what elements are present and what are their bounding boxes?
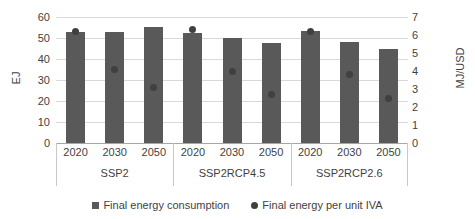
bar-2030-4: [223, 38, 242, 143]
x-axis-group-label-2: SSP2RCP2.6: [291, 167, 408, 179]
y-axis-right-tick-6: 6: [412, 29, 436, 41]
x-axis-year-label-4: 2030: [212, 146, 251, 158]
gridline-60: [56, 17, 408, 18]
y-axis-left-title: EJ: [10, 58, 22, 98]
datapoint-2030-7: [346, 71, 353, 78]
plot-area: [56, 17, 408, 143]
bar-2020-3: [183, 33, 202, 143]
y-axis-left-tick-0: 0: [26, 137, 50, 149]
x-axis-year-label-3: 2020: [173, 146, 212, 158]
datapoint-2020-6: [307, 28, 314, 35]
x-axis-year-label-6: 2020: [291, 146, 330, 158]
y-axis-right-title: MJ/USD: [454, 38, 466, 98]
y-axis-left-tick-40: 40: [26, 53, 50, 65]
chart-legend: Final energy consumptionFinal energy per…: [0, 196, 475, 214]
y-axis-left-tick-20: 20: [26, 95, 50, 107]
datapoint-2050-8: [385, 95, 392, 102]
x-axis-year-label-8: 2050: [369, 146, 408, 158]
y-axis-right-tick-0: 0: [412, 137, 436, 149]
x-axis-group-separator-9: [407, 143, 408, 186]
x-axis-group-label-0: SSP2: [56, 167, 173, 179]
legend-label-1: Final energy per unit IVA: [262, 199, 382, 211]
datapoint-2050-2: [150, 84, 157, 91]
datapoint-2030-1: [111, 66, 118, 73]
y-axis-right-tick-2: 2: [412, 101, 436, 113]
y-axis-left-tick-10: 10: [26, 116, 50, 128]
legend-circle-icon: [251, 202, 258, 209]
x-axis-year-label-0: 2020: [56, 146, 95, 158]
y-axis-left-tick-50: 50: [26, 32, 50, 44]
x-axis-year-label-5: 2050: [252, 146, 291, 158]
y-axis-right-tick-7: 7: [412, 11, 436, 23]
x-axis: 202020302050202020302050202020302050SSP2…: [56, 143, 408, 187]
y-axis-right-tick-5: 5: [412, 47, 436, 59]
x-axis-year-label-1: 2030: [95, 146, 134, 158]
bar-2030-7: [340, 42, 359, 143]
bar-2020-6: [301, 31, 320, 143]
x-axis-group-separator-3: [173, 143, 174, 186]
bar-2020-0: [66, 32, 85, 143]
datapoint-2020-0: [72, 28, 79, 35]
y-axis-left-tick-30: 30: [26, 74, 50, 86]
x-axis-year-label-7: 2030: [330, 146, 369, 158]
legend-square-icon: [92, 202, 99, 209]
bar-2030-1: [105, 32, 124, 143]
legend-item-1[interactable]: Final energy per unit IVA: [251, 199, 382, 211]
x-axis-group-separator-6: [291, 143, 292, 186]
x-axis-year-label-2: 2050: [134, 146, 173, 158]
x-axis-group-label-1: SSP2RCP4.5: [173, 167, 290, 179]
y-axis-right-tick-4: 4: [412, 65, 436, 77]
datapoint-2050-5: [268, 91, 275, 98]
datapoint-2030-4: [229, 68, 236, 75]
y-axis-right-tick-1: 1: [412, 119, 436, 131]
legend-label-0: Final energy consumption: [103, 199, 229, 211]
x-axis-line: [56, 143, 408, 144]
y-axis-right-tick-3: 3: [412, 83, 436, 95]
legend-item-0[interactable]: Final energy consumption: [92, 199, 229, 211]
x-axis-group-separator-0: [56, 143, 57, 186]
y-axis-left-tick-60: 60: [26, 11, 50, 23]
chart-container: EJ MJ/USD 0102030405060 01234567 2020203…: [0, 0, 475, 219]
